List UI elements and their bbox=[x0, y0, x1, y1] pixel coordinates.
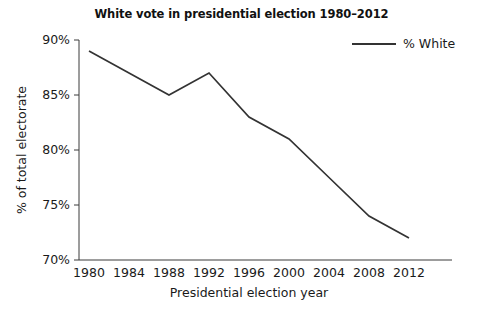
x-axis-title: Presidential election year bbox=[170, 285, 329, 300]
x-tick-label-2008: 2008 bbox=[353, 265, 385, 280]
chart-container: White vote in presidential election 1980… bbox=[0, 0, 483, 318]
y-tick-label-75: 75% bbox=[42, 197, 70, 212]
x-tick-label-2004: 2004 bbox=[313, 265, 345, 280]
x-tick-label-1992: 1992 bbox=[193, 265, 225, 280]
plot-area: 90% 85% 80% 75% 70% 1980 1984 1988 1992 … bbox=[0, 0, 483, 318]
y-tick-label-85: 85% bbox=[42, 87, 70, 102]
x-tick-label-1984: 1984 bbox=[113, 265, 145, 280]
series-line-white bbox=[89, 51, 409, 238]
x-tick-label-2000: 2000 bbox=[273, 265, 305, 280]
y-axis-ticks: 90% 85% 80% 75% 70% bbox=[42, 32, 79, 267]
x-tick-label-1980: 1980 bbox=[73, 265, 105, 280]
y-tick-label-70: 70% bbox=[42, 252, 70, 267]
y-tick-label-80: 80% bbox=[42, 142, 70, 157]
x-axis-ticks: 1980 1984 1988 1992 1996 2000 2004 2008 … bbox=[73, 265, 425, 280]
y-axis-title: % of total electorate bbox=[14, 86, 29, 214]
y-tick-label-90: 90% bbox=[42, 32, 70, 47]
x-tick-label-2012: 2012 bbox=[393, 265, 425, 280]
x-tick-label-1996: 1996 bbox=[233, 265, 265, 280]
x-tick-label-1988: 1988 bbox=[153, 265, 185, 280]
